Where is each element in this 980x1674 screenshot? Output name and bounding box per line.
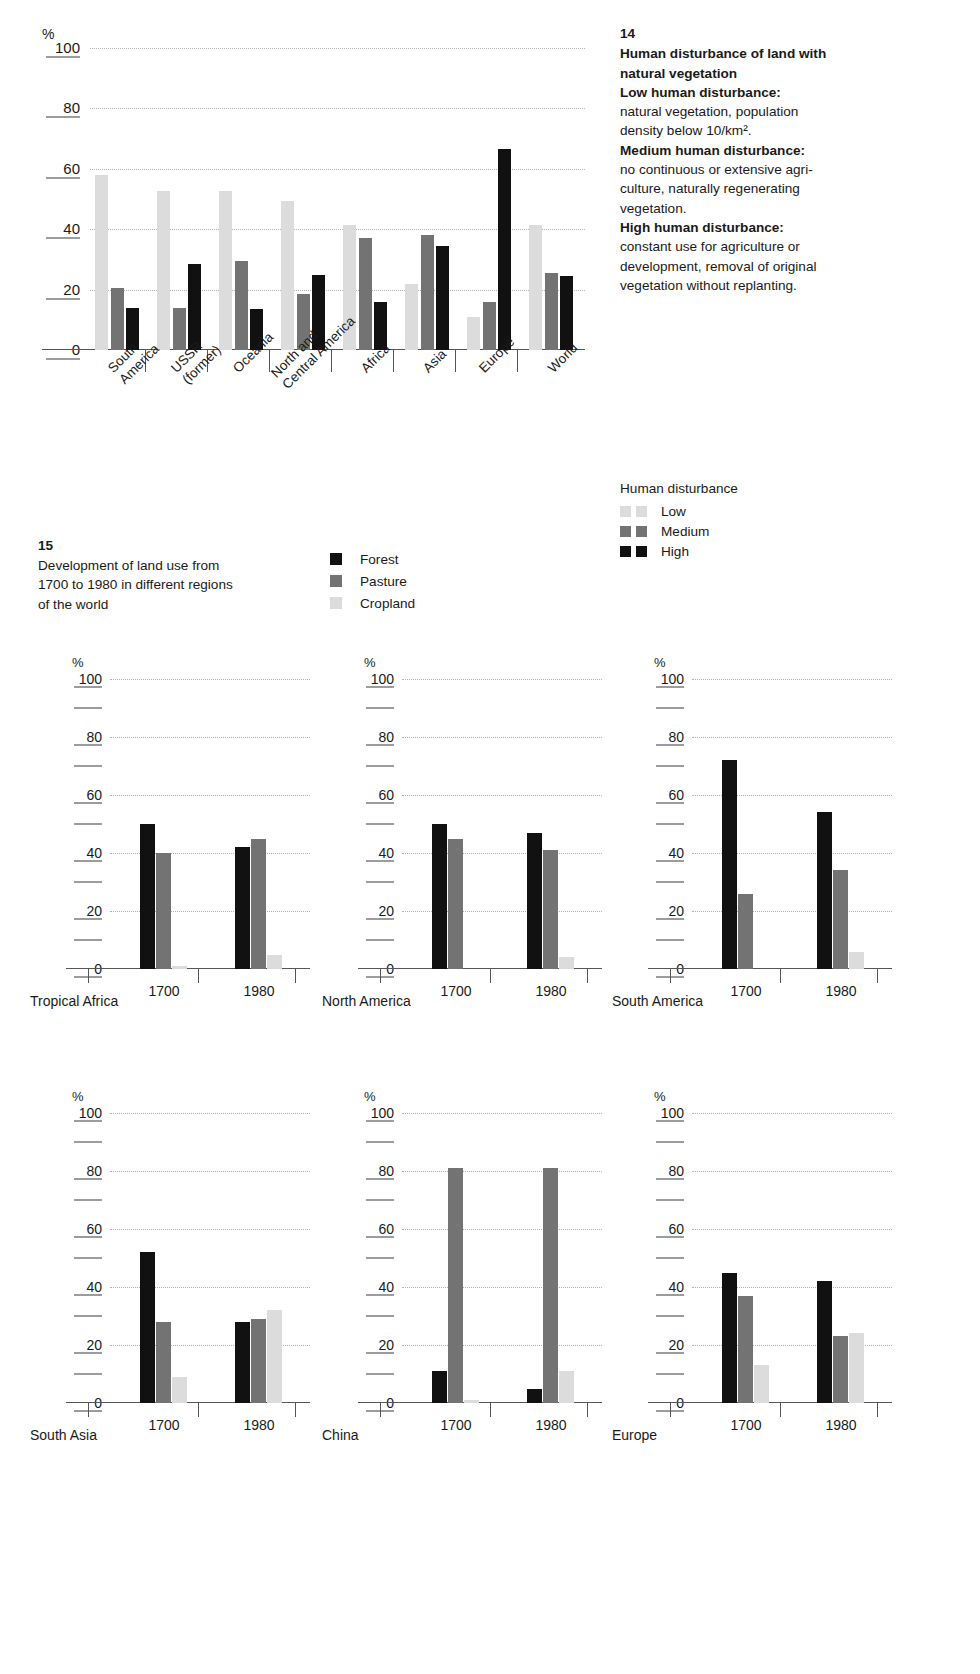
panel-axis-separator (198, 969, 199, 983)
panel-y-tick: 80 (58, 1163, 102, 1180)
fig14-bar (545, 273, 558, 350)
panel-y-tick-mark (366, 803, 394, 804)
panel-axis-separator (295, 969, 296, 983)
legend-swatch-icon (330, 553, 342, 565)
panel-y-tick-mark (74, 882, 102, 883)
panel-bar (722, 1273, 737, 1404)
fig14-bar (421, 235, 434, 350)
panel-y-tick-mark (74, 1200, 102, 1201)
fig14-y-tick-mark (46, 298, 80, 299)
panel-y-tick: 0 (350, 1395, 394, 1412)
panel-x-label: 1700 (421, 1417, 491, 1433)
panel-bar (464, 1400, 479, 1403)
panel-y-tick (640, 882, 684, 883)
fig14-y-tick: 60 (34, 159, 80, 178)
fig15-caption-line-3: of the world (38, 595, 308, 615)
panel-bar (251, 839, 266, 970)
fig14-legend-rows: LowMediumHigh (620, 501, 870, 561)
panel-y-tick: 40 (350, 1279, 394, 1296)
fig15-number: 15 (38, 536, 308, 556)
panel-y-tick-label: 40 (350, 845, 394, 861)
fig14-axis-separator (517, 350, 518, 372)
fig14-bar (157, 191, 170, 350)
panel-y-tick-mark (656, 708, 684, 709)
panel-axis-separator (780, 1403, 781, 1417)
panel-y-tick: 60 (350, 787, 394, 804)
panel-y-tick (58, 708, 102, 709)
panel-x-label: 1700 (129, 1417, 199, 1433)
panel-axis-separator (877, 1403, 878, 1417)
panel-bar (527, 833, 542, 969)
fig15-legend-item: Forest (330, 548, 415, 570)
fig14-def-low-line-2: density below 10/km². (620, 121, 870, 140)
panel-y-tick: 40 (58, 1279, 102, 1296)
panel-bar (172, 966, 187, 969)
panel-y-tick-label: 20 (58, 903, 102, 919)
panel-bar-group (140, 1113, 188, 1403)
panel-bar (448, 1168, 463, 1403)
panel-axis-separator (877, 969, 878, 983)
fig15-panel-north-america: %02040608010017001980North America (322, 655, 612, 1055)
panel-y-axis-unit: % (654, 1089, 666, 1104)
panel-y-tick: 100 (350, 1105, 394, 1122)
panel-bar-group (527, 1113, 575, 1403)
fig14-term-high: High human disturbance: (620, 218, 870, 237)
panel-y-tick-mark (656, 1258, 684, 1259)
fig14-bar (219, 191, 232, 350)
panel-y-tick (640, 1200, 684, 1201)
legend-swatch-icon (636, 526, 647, 537)
panel-y-tick-mark (366, 708, 394, 709)
fig14-bar (281, 201, 294, 350)
panel-y-axis-ticks: 020406080100 (30, 1113, 110, 1403)
fig15-legend-label: Cropland (360, 596, 415, 611)
panel-y-tick-mark (656, 1179, 684, 1180)
fig14-bar-group (95, 48, 134, 350)
fig14-y-tick-mark (46, 359, 80, 360)
panel-y-tick (350, 882, 394, 883)
panel-bar (448, 839, 463, 970)
fig15-panel-europe: %02040608010017001980Europe (612, 1089, 902, 1489)
fig14-def-medium-line-2: culture, naturally regenerating (620, 179, 870, 198)
panel-bar (172, 1377, 187, 1403)
fig14-legend-item: High (620, 541, 870, 561)
panel-y-tick-mark (74, 1353, 102, 1354)
fig14-y-tick-label: 100 (34, 39, 80, 57)
panel-y-tick-mark (74, 861, 102, 862)
panel-y-tick-label: 100 (58, 671, 102, 687)
fig14-bar (359, 238, 372, 350)
panel-y-tick-mark (656, 1237, 684, 1238)
fig14-x-label: Asia (420, 346, 450, 376)
panel-y-tick: 0 (640, 961, 684, 978)
fig14-bar (111, 288, 124, 350)
panel-y-tick-label: 20 (350, 1337, 394, 1353)
panel-y-tick-mark (656, 882, 684, 883)
panel-y-tick (58, 1374, 102, 1375)
panel-bar (849, 952, 864, 969)
fig14-def-low-line-1: natural vegetation, population (620, 102, 870, 121)
panel-bar (817, 812, 832, 969)
fig15-legend-item: Pasture (330, 570, 415, 592)
fig15-panel-south-america: %02040608010017001980South America (612, 655, 902, 1055)
panel-y-tick-label: 100 (350, 671, 394, 687)
panel-y-tick-mark (366, 1237, 394, 1238)
panel-axis-separator (380, 969, 381, 983)
panel-y-tick (640, 708, 684, 709)
panel-y-tick-label: 40 (350, 1279, 394, 1295)
panel-y-tick (640, 1316, 684, 1317)
panel-y-tick (58, 940, 102, 941)
panel-y-tick (58, 1142, 102, 1143)
panel-x-label: 1700 (129, 983, 199, 999)
panel-y-tick-mark (366, 766, 394, 767)
panel-y-axis-ticks: 020406080100 (322, 1113, 402, 1403)
panel-x-label: 1980 (224, 1417, 294, 1433)
panel-y-tick-mark (74, 919, 102, 920)
fig14-legend-label: Medium (661, 524, 709, 539)
panel-y-tick: 0 (58, 961, 102, 978)
panel-y-tick-label: 100 (58, 1105, 102, 1121)
legend-swatch-icon (620, 546, 631, 557)
panel-y-tick-mark (74, 1295, 102, 1296)
panel-bar (738, 1296, 753, 1403)
panel-y-tick-label: 80 (640, 1163, 684, 1179)
panel-title: North America (322, 993, 411, 1009)
panel-y-tick-mark (656, 766, 684, 767)
